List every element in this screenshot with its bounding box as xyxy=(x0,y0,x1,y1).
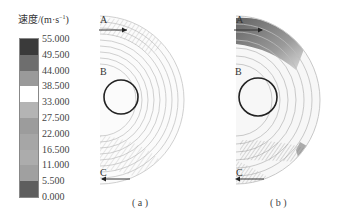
marker-c-label: C xyxy=(236,167,243,178)
velocity-contour-b xyxy=(0,0,352,218)
panel-b-caption: ( b ) xyxy=(270,197,287,208)
marker-b-label: B xyxy=(235,66,242,77)
panel-b: A B C ( b ) xyxy=(0,0,352,218)
marker-a-label: A xyxy=(236,14,243,25)
